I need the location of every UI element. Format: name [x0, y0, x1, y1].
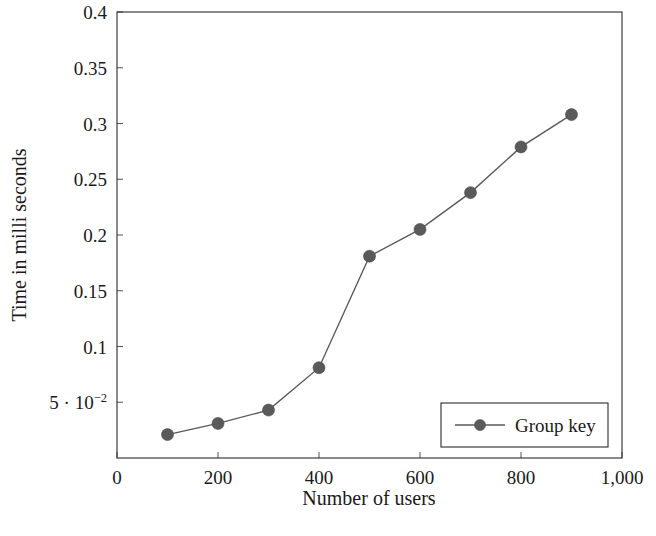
legend-sample-marker: [475, 420, 486, 431]
data-point-marker: [566, 109, 578, 121]
data-point-marker: [515, 141, 527, 153]
y-tick-label: 0.25: [74, 169, 107, 190]
y-tick-label: 0.4: [83, 2, 107, 23]
x-tick-label: 800: [507, 467, 536, 488]
data-point-marker: [162, 429, 174, 441]
y-tick-label: 0.35: [74, 58, 107, 79]
data-point-marker: [263, 404, 275, 416]
line-chart-figure: 02004006008001,000 5 · 10−20.10.150.20.2…: [0, 0, 656, 536]
x-tick-label: 200: [204, 467, 233, 488]
chart-canvas: 02004006008001,000 5 · 10−20.10.150.20.2…: [0, 0, 656, 536]
data-point-marker: [313, 362, 325, 374]
x-tick-label: 0: [112, 467, 122, 488]
legend[interactable]: Group key: [441, 403, 608, 447]
x-tick-label: 1,000: [601, 467, 644, 488]
y-tick-label: 0.15: [74, 281, 107, 302]
y-tick-label: 0.1: [83, 337, 107, 358]
data-point-marker: [364, 250, 376, 262]
chart-page: 02004006008001,000 5 · 10−20.10.150.20.2…: [0, 0, 656, 536]
x-axis-title: Number of users: [302, 487, 436, 509]
x-tick-label: 600: [406, 467, 435, 488]
data-point-marker: [465, 187, 477, 199]
x-tick-label: 400: [305, 467, 334, 488]
data-point-marker: [414, 223, 426, 235]
y-tick-label-exponent: −2: [94, 391, 107, 405]
data-point-marker: [212, 417, 224, 429]
chart-background: [0, 0, 656, 536]
legend-label-group-key: Group key: [515, 415, 596, 436]
y-tick-label: 0.3: [83, 114, 107, 135]
y-tick-label: 0.2: [83, 225, 107, 246]
y-axis-title: Time in milli seconds: [8, 148, 30, 321]
